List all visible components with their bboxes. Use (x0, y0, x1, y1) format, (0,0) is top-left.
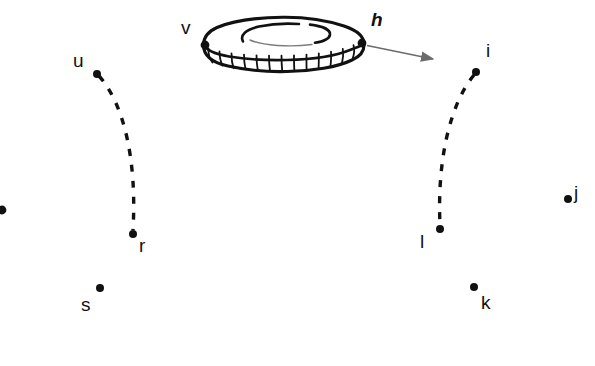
point-s[interactable] (96, 284, 104, 292)
point-v[interactable] (201, 41, 210, 50)
point-h[interactable] (358, 39, 367, 48)
label-k: k (481, 293, 491, 312)
point-i[interactable] (472, 68, 480, 76)
point-k[interactable] (470, 283, 478, 291)
arrow-from-h (367, 46, 433, 60)
label-l: l (420, 232, 424, 251)
dashed-arc-u-r (99, 76, 134, 230)
point-l[interactable] (436, 225, 444, 233)
point-markers (0, 39, 572, 292)
label-u: u (73, 51, 84, 70)
figure-canvas: v h u i r l j s k (0, 0, 595, 366)
label-r: r (139, 236, 145, 255)
torus-shape (204, 17, 365, 71)
dashed-arc-i-l (440, 75, 474, 225)
torus-front-band (204, 17, 365, 71)
dashed-arcs (99, 75, 474, 230)
point-j[interactable] (564, 195, 572, 203)
label-v: v (181, 18, 191, 37)
label-j: j (574, 183, 578, 202)
label-h: h (371, 10, 383, 29)
point-edge-unlabeled[interactable] (0, 206, 6, 215)
point-u[interactable] (93, 70, 101, 78)
label-s: s (81, 295, 91, 314)
point-r[interactable] (129, 230, 137, 238)
label-i: i (486, 41, 490, 60)
